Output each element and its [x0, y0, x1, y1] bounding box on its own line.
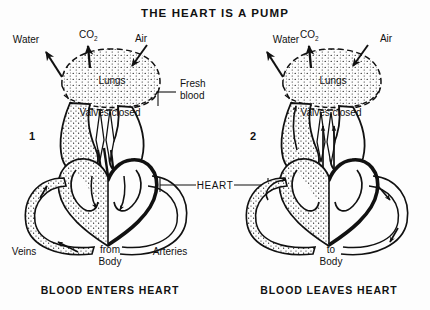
arteries-label-1: Arteries: [153, 246, 187, 257]
valves-label-2: Valves closed: [301, 107, 362, 118]
panel-number-2: 2: [250, 130, 256, 142]
veins-label-1: Veins: [12, 246, 36, 257]
valves-label-1: Valves closed: [80, 107, 141, 118]
figure-title: THE HEART IS A PUMP: [141, 7, 289, 19]
from-body-label-line2: Body: [99, 256, 122, 267]
panel-caption-2: BLOOD LEAVES HEART: [260, 284, 397, 296]
lungs-label-1: Lungs: [98, 75, 125, 86]
to-body-label-line1: to: [327, 244, 336, 255]
fresh-blood-label-line2: blood: [180, 90, 204, 101]
air-label-2: Air: [380, 33, 393, 44]
from-body-label-line1: from: [100, 244, 120, 255]
fresh-blood-label-line1: Fresh: [180, 78, 206, 89]
heart-pump-diagram: THE HEART IS A PUMP Lungs Water CO2 Air …: [0, 0, 430, 310]
air-label-1: Air: [135, 33, 148, 44]
water-label-1: Water: [13, 34, 40, 45]
lungs-label-2: Lungs: [319, 75, 346, 86]
to-body-label-line2: Body: [320, 256, 343, 267]
panel-caption-1: BLOOD ENTERS HEART: [41, 284, 180, 296]
heart-center-label: HEART: [197, 180, 234, 191]
water-label-2: Water: [273, 34, 300, 45]
panel-number-1: 1: [29, 130, 35, 142]
